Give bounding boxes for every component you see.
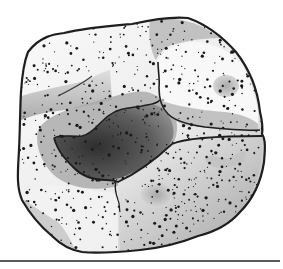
rock-body [10, 14, 270, 257]
dimple-upper [213, 75, 239, 97]
rock-illustration [0, 0, 283, 269]
